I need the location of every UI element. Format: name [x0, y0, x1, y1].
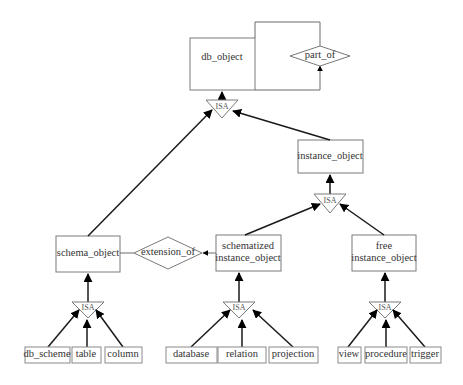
entity-procedure[interactable]: procedure: [365, 347, 407, 363]
entity-trigger[interactable]: trigger: [410, 347, 441, 363]
entity-instance-object[interactable]: instance_object: [297, 140, 363, 173]
relationship-extension-of[interactable]: extension_of: [134, 237, 202, 269]
relationship-label: extension_of: [141, 246, 196, 257]
entity-label-line1: free: [376, 240, 393, 251]
entity-label: relation: [226, 348, 259, 359]
entity-projection[interactable]: projection: [269, 347, 318, 363]
entity-db-scheme[interactable]: db_scheme: [23, 347, 71, 363]
isa-label: ISA: [233, 303, 246, 312]
entity-column[interactable]: column: [105, 347, 142, 363]
entity-label: schema_object: [57, 247, 119, 258]
isa-label: ISA: [82, 303, 95, 312]
isa-edge-instance-object: [233, 111, 330, 140]
isa-db-object: ISA: [206, 92, 238, 118]
isa-label: ISA: [379, 303, 392, 312]
relationship-part-of[interactable]: part_of: [290, 46, 350, 66]
entity-view[interactable]: view: [338, 347, 361, 363]
entity-label: view: [339, 348, 360, 359]
part-of-connector-top: [255, 22, 320, 46]
entity-label: instance_object: [297, 150, 362, 161]
isa-edge-schema-object: [88, 110, 212, 236]
part-of-connector-bottom: [255, 66, 320, 90]
entity-table[interactable]: table: [72, 347, 101, 363]
entity-relation[interactable]: relation: [218, 347, 266, 363]
isa-label: ISA: [324, 196, 337, 205]
entity-schematized-instance-object[interactable]: schematized instance_object: [215, 235, 281, 271]
entity-database[interactable]: database: [166, 347, 217, 363]
entity-label: projection: [272, 348, 315, 359]
er-diagram: db_object part_of ISA instance_object IS…: [0, 0, 463, 385]
isa-edge-free: [340, 204, 384, 235]
entity-label-line1: schematized: [222, 240, 275, 251]
entity-label: db_scheme: [23, 348, 71, 359]
isa-edge-schematized: [245, 204, 320, 235]
entity-label-line2: instance_object: [351, 252, 416, 263]
entity-label: column: [107, 348, 139, 359]
entity-schema-object[interactable]: schema_object: [56, 236, 120, 272]
isa-label: ISA: [216, 102, 229, 111]
isa-schema-object: ISA: [72, 274, 104, 318]
entity-label: db_object: [201, 51, 242, 62]
entity-db-object[interactable]: db_object: [190, 38, 255, 90]
entity-label: procedure: [365, 348, 407, 359]
entity-label: table: [76, 348, 97, 359]
entity-label: trigger: [411, 348, 439, 359]
entity-label: database: [173, 348, 209, 359]
isa-free: ISA: [369, 273, 401, 318]
entity-free-instance-object[interactable]: free instance_object: [351, 235, 416, 271]
entity-label-line2: instance_object: [215, 252, 280, 263]
relationship-label: part_of: [305, 49, 336, 60]
isa-instance-object: ISA: [314, 175, 346, 213]
